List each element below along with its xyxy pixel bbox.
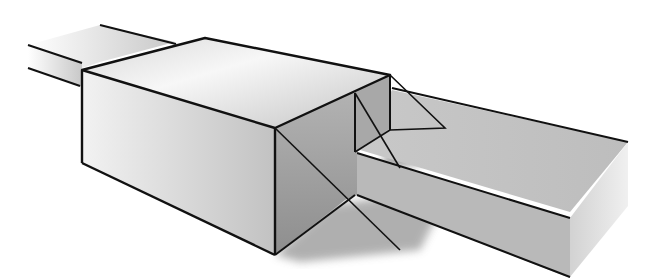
illustration [0,0,654,280]
box-on-beam-drawing [0,0,654,280]
